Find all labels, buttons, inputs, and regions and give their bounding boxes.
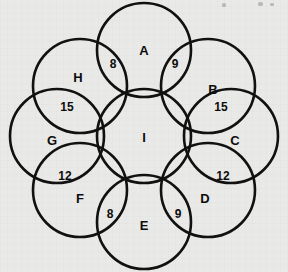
overlap-value-ED: 9 [175,207,182,221]
circle-label-E: E [140,218,149,233]
overlapping-circles-diagram: A B C D E F G H I 8 9 15 15 12 12 8 9 [0,0,288,272]
circle-label-A: A [139,43,149,58]
overlap-value-FE: 8 [107,207,114,221]
overlap-value-BC: 15 [214,100,228,114]
circle-label-B: B [208,82,217,97]
circle-label-D: D [200,191,209,206]
circle-label-I: I [142,130,146,145]
circle-label-G: G [47,133,57,148]
overlap-value-GF: 12 [58,169,72,183]
circle-label-C: C [230,133,240,148]
overlap-value-AB: 9 [172,57,179,71]
overlap-value-CD: 12 [216,169,230,183]
venn-diagram-figure: A B C D E F G H I 8 9 15 15 12 12 8 9 [0,0,288,272]
overlap-value-HG: 15 [60,100,74,114]
circle-label-H: H [73,70,82,85]
circle-label-F: F [76,191,84,206]
overlap-value-HA: 8 [110,57,117,71]
